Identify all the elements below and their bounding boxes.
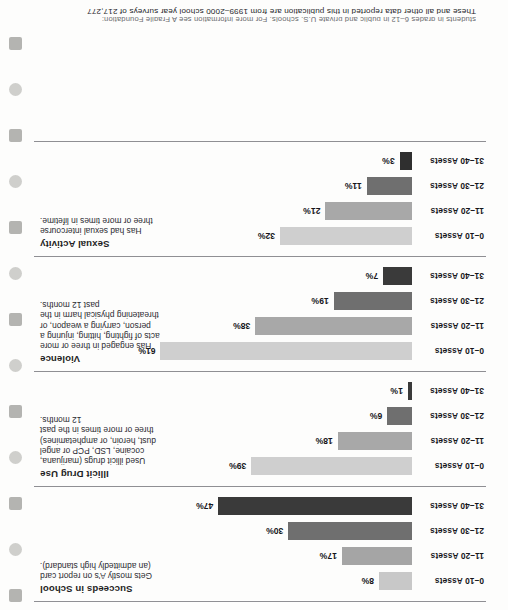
footnote-clipped-line: students in grades 6–12 in public and pr… bbox=[34, 17, 476, 24]
bar bbox=[379, 573, 412, 591]
bar-row: 21–30 Assets11% bbox=[34, 174, 486, 199]
binding-hole bbox=[9, 589, 22, 602]
bar-value-label: 11% bbox=[345, 182, 362, 192]
bar-category-label: 21–30 Assets bbox=[412, 412, 486, 422]
binding-hole bbox=[9, 129, 22, 142]
bar bbox=[400, 153, 412, 171]
bar bbox=[334, 293, 412, 311]
bar-row: 31–40 Assets47% bbox=[34, 494, 486, 519]
bar-category-label: 0–10 Assets bbox=[412, 232, 486, 242]
bar-value-label: 21% bbox=[303, 207, 320, 217]
bar-track: 17% bbox=[34, 544, 412, 569]
bar bbox=[387, 408, 412, 426]
bar-value-label: 17% bbox=[320, 552, 337, 562]
bar bbox=[367, 178, 412, 196]
bar-row: 11–20 Assets38% bbox=[34, 314, 486, 339]
chart-group: Illicit Drug UseUsed illicit drugs (mari… bbox=[34, 372, 486, 487]
binding-hole bbox=[9, 267, 22, 280]
binding-hole bbox=[9, 405, 22, 418]
chart-group: Succeeds in SchoolGets mostly A's on rep… bbox=[34, 487, 486, 602]
bar-value-label: 47% bbox=[196, 502, 213, 512]
binding-hole bbox=[9, 359, 22, 372]
bar-track: 30% bbox=[34, 519, 412, 544]
bar-category-label: 11–20 Assets bbox=[412, 437, 486, 447]
bar-category-label: 21–30 Assets bbox=[412, 182, 486, 192]
bar-track: 61% bbox=[34, 339, 412, 364]
bar-category-label: 0–10 Assets bbox=[412, 462, 486, 472]
bar-value-label: 19% bbox=[311, 297, 328, 307]
bar bbox=[288, 523, 412, 541]
bar-category-label: 31–40 Assets bbox=[412, 502, 486, 512]
bar-row: 31–40 Assets1% bbox=[34, 379, 486, 404]
bar-value-label: 6% bbox=[370, 412, 382, 422]
bar bbox=[218, 498, 412, 516]
binding-hole bbox=[9, 175, 22, 188]
bar-category-label: 31–40 Assets bbox=[412, 157, 486, 167]
bar bbox=[251, 458, 412, 476]
bar-value-label: 18% bbox=[316, 437, 333, 447]
chart-group: Sexual ActivityHas had sexual intercours… bbox=[34, 141, 486, 257]
bar-category-label: 0–10 Assets bbox=[412, 347, 486, 357]
bar-row: 0–10 Assets39% bbox=[34, 454, 486, 479]
binding-hole bbox=[9, 37, 22, 50]
bar-row: 21–30 Assets19% bbox=[34, 289, 486, 314]
bar-track: 32% bbox=[34, 224, 412, 249]
bar-category-label: 21–30 Assets bbox=[412, 297, 486, 307]
bar-track: 8% bbox=[34, 569, 412, 594]
bar-row: 21–30 Assets6% bbox=[34, 404, 486, 429]
bar-row: 21–30 Assets30% bbox=[34, 519, 486, 544]
bar-value-label: 32% bbox=[258, 232, 275, 242]
bar-value-label: 8% bbox=[362, 577, 374, 587]
binding-hole bbox=[9, 83, 22, 96]
binding-hole bbox=[9, 543, 22, 556]
bar-track: 3% bbox=[34, 149, 412, 174]
bar-category-label: 31–40 Assets bbox=[412, 272, 486, 282]
bar-track: 11% bbox=[34, 174, 412, 199]
bar bbox=[408, 383, 412, 401]
bar-row: 0–10 Assets32% bbox=[34, 224, 486, 249]
bar-category-label: 11–20 Assets bbox=[412, 322, 486, 332]
bar-track: 18% bbox=[34, 429, 412, 454]
bar-track: 38% bbox=[34, 314, 412, 339]
binding-hole bbox=[9, 313, 22, 326]
bar-row: 0–10 Assets8% bbox=[34, 569, 486, 594]
bar bbox=[255, 318, 412, 336]
bar-value-label: 3% bbox=[382, 157, 394, 167]
chart-group: ViolenceHas engaged in three or more act… bbox=[34, 257, 486, 372]
bar-category-label: 11–20 Assets bbox=[412, 207, 486, 217]
group-rows: 0–10 Assets61%11–20 Assets38%21–30 Asset… bbox=[34, 257, 486, 371]
bar-row: 31–40 Assets7% bbox=[34, 264, 486, 289]
bar bbox=[161, 343, 413, 361]
bar-track: 47% bbox=[34, 494, 412, 519]
group-rows: 0–10 Assets32%11–20 Assets21%21–30 Asset… bbox=[34, 142, 486, 256]
bar-track: 7% bbox=[34, 264, 412, 289]
bar bbox=[280, 228, 412, 246]
bar-track: 6% bbox=[34, 404, 412, 429]
spiral-binding-strip bbox=[0, 0, 30, 610]
group-rows: 0–10 Assets39%11–20 Assets18%21–30 Asset… bbox=[34, 372, 486, 486]
bar-row: 11–20 Assets18% bbox=[34, 429, 486, 454]
scanned-page-stage: Succeeds in SchoolGets mostly A's on rep… bbox=[0, 0, 508, 610]
bar bbox=[383, 268, 412, 286]
bar-category-label: 11–20 Assets bbox=[412, 552, 486, 562]
bar-category-label: 21–30 Assets bbox=[412, 527, 486, 537]
bar-track: 39% bbox=[34, 454, 412, 479]
footnote: students in grades 6–12 in public and pr… bbox=[34, 6, 476, 24]
footnote-text: These and all other data reported in thi… bbox=[87, 7, 476, 16]
bar-track: 19% bbox=[34, 289, 412, 314]
bar-row: 11–20 Assets17% bbox=[34, 544, 486, 569]
bar-value-label: 7% bbox=[366, 272, 378, 282]
binding-hole bbox=[9, 221, 22, 234]
bar-track: 21% bbox=[34, 199, 412, 224]
bar bbox=[342, 548, 412, 566]
group-rows: 0–10 Assets8%11–20 Assets17%21–30 Assets… bbox=[34, 487, 486, 601]
bar bbox=[325, 203, 412, 221]
grouped-bar-chart: Succeeds in SchoolGets mostly A's on rep… bbox=[34, 62, 486, 602]
bar-row: 11–20 Assets21% bbox=[34, 199, 486, 224]
bar-track: 1% bbox=[34, 379, 412, 404]
bar-value-label: 61% bbox=[138, 347, 155, 357]
bar-value-label: 38% bbox=[233, 322, 250, 332]
bar-row: 0–10 Assets61% bbox=[34, 339, 486, 364]
bar-row: 31–40 Assets3% bbox=[34, 149, 486, 174]
bar bbox=[338, 433, 412, 451]
